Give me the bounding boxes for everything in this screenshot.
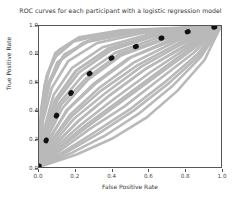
x-tick-label: 0.6 [136, 173, 160, 179]
x-tick-label: 1.0 [210, 173, 234, 179]
y-axis-ticks: 0.00.20.40.60.81.0 [0, 25, 38, 168]
x-tick-mark [222, 169, 223, 172]
x-tick-label: 0.4 [100, 173, 124, 179]
chart-title: ROC curves for each participant with a l… [0, 7, 241, 14]
x-axis-label: False Positive Rate [38, 183, 222, 190]
roc-chart-figure: ROC curves for each participant with a l… [0, 0, 241, 202]
x-tick-mark [185, 169, 186, 172]
x-tick-mark [38, 169, 39, 172]
x-axis-ticks: 0.00.20.40.60.81.0 [38, 169, 222, 181]
roc-curves-svg [39, 26, 221, 167]
plot-area [38, 25, 222, 168]
x-tick-label: 0.0 [26, 173, 50, 179]
x-tick-label: 0.8 [173, 173, 197, 179]
x-tick-mark [75, 169, 76, 172]
x-tick-label: 0.2 [63, 173, 87, 179]
x-tick-mark [112, 169, 113, 172]
x-tick-mark [148, 169, 149, 172]
